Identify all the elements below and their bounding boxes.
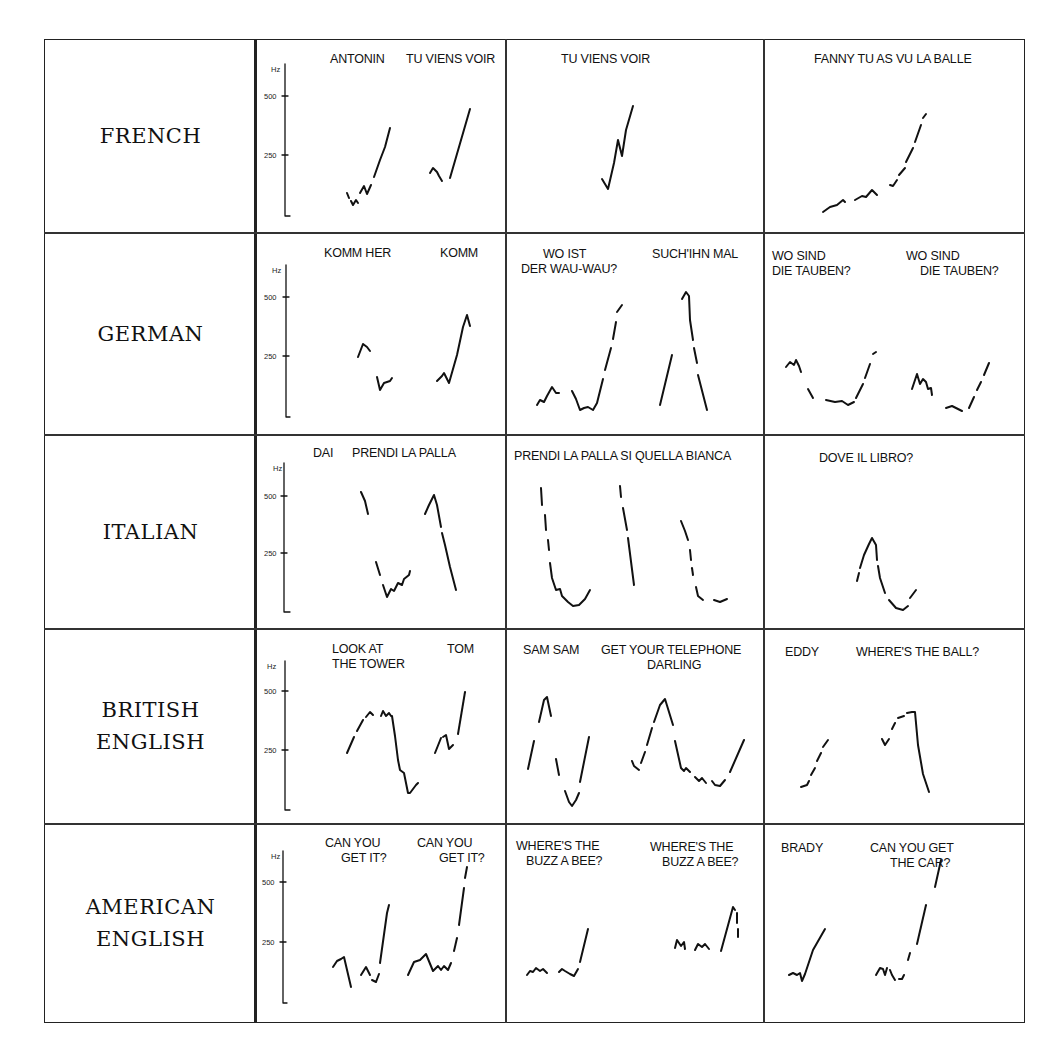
contours-italian-cell2 — [541, 486, 727, 606]
contours-american-cell3 — [789, 860, 941, 981]
y-axis-french — [282, 64, 290, 216]
contours-german-cell2 — [537, 292, 707, 410]
contours-french-cell1 — [347, 109, 470, 205]
axis-labels: Hz 500 250 Hz 500 250 Hz 500 250 Hz 500 … — [262, 65, 282, 947]
axis-unit-label: Hz — [267, 662, 276, 671]
contours-british-cell2 — [528, 697, 744, 806]
contours-italian-cell3 — [857, 538, 916, 610]
y-axis-british — [282, 661, 290, 810]
contours-british-cell3 — [801, 712, 929, 792]
tick-250: 250 — [264, 746, 277, 755]
tick-500: 500 — [264, 687, 277, 696]
contours-british-cell1 — [347, 692, 465, 793]
contours-german-cell1 — [358, 315, 470, 390]
tick-250: 250 — [264, 151, 277, 160]
f0-contour-plots: Hz 500 250 Hz 500 250 Hz 500 250 Hz 500 … — [0, 0, 1060, 1063]
contours-italian-cell1 — [361, 492, 456, 597]
tick-500: 500 — [264, 293, 277, 302]
axis-unit-label: Hz — [273, 464, 282, 473]
tick-500: 500 — [264, 92, 277, 101]
tick-250: 250 — [264, 352, 277, 361]
contours-french-cell2 — [602, 106, 633, 189]
axis-unit-label: Hz — [271, 65, 280, 74]
y-axis-american — [280, 851, 287, 1003]
tick-500: 500 — [264, 492, 277, 501]
contours-german-cell3 — [786, 352, 989, 411]
contours-american-cell2 — [527, 907, 738, 976]
contours-american-cell1 — [333, 867, 467, 987]
contours-french-cell3 — [823, 114, 926, 212]
tick-500: 500 — [262, 878, 275, 887]
axis-unit-label: Hz — [272, 266, 281, 275]
axis-unit-label: Hz — [271, 852, 280, 861]
y-axis-german — [283, 265, 290, 417]
tick-250: 250 — [262, 938, 275, 947]
tick-250: 250 — [264, 549, 277, 558]
y-axis-italian — [281, 463, 290, 612]
